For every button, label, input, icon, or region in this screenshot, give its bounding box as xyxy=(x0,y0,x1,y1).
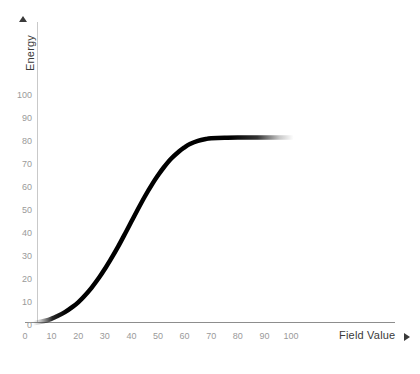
energy-curve xyxy=(33,137,294,323)
curve-layer xyxy=(0,0,420,374)
chart-canvas: Energy Field Value 010203040506070809010… xyxy=(0,0,420,374)
